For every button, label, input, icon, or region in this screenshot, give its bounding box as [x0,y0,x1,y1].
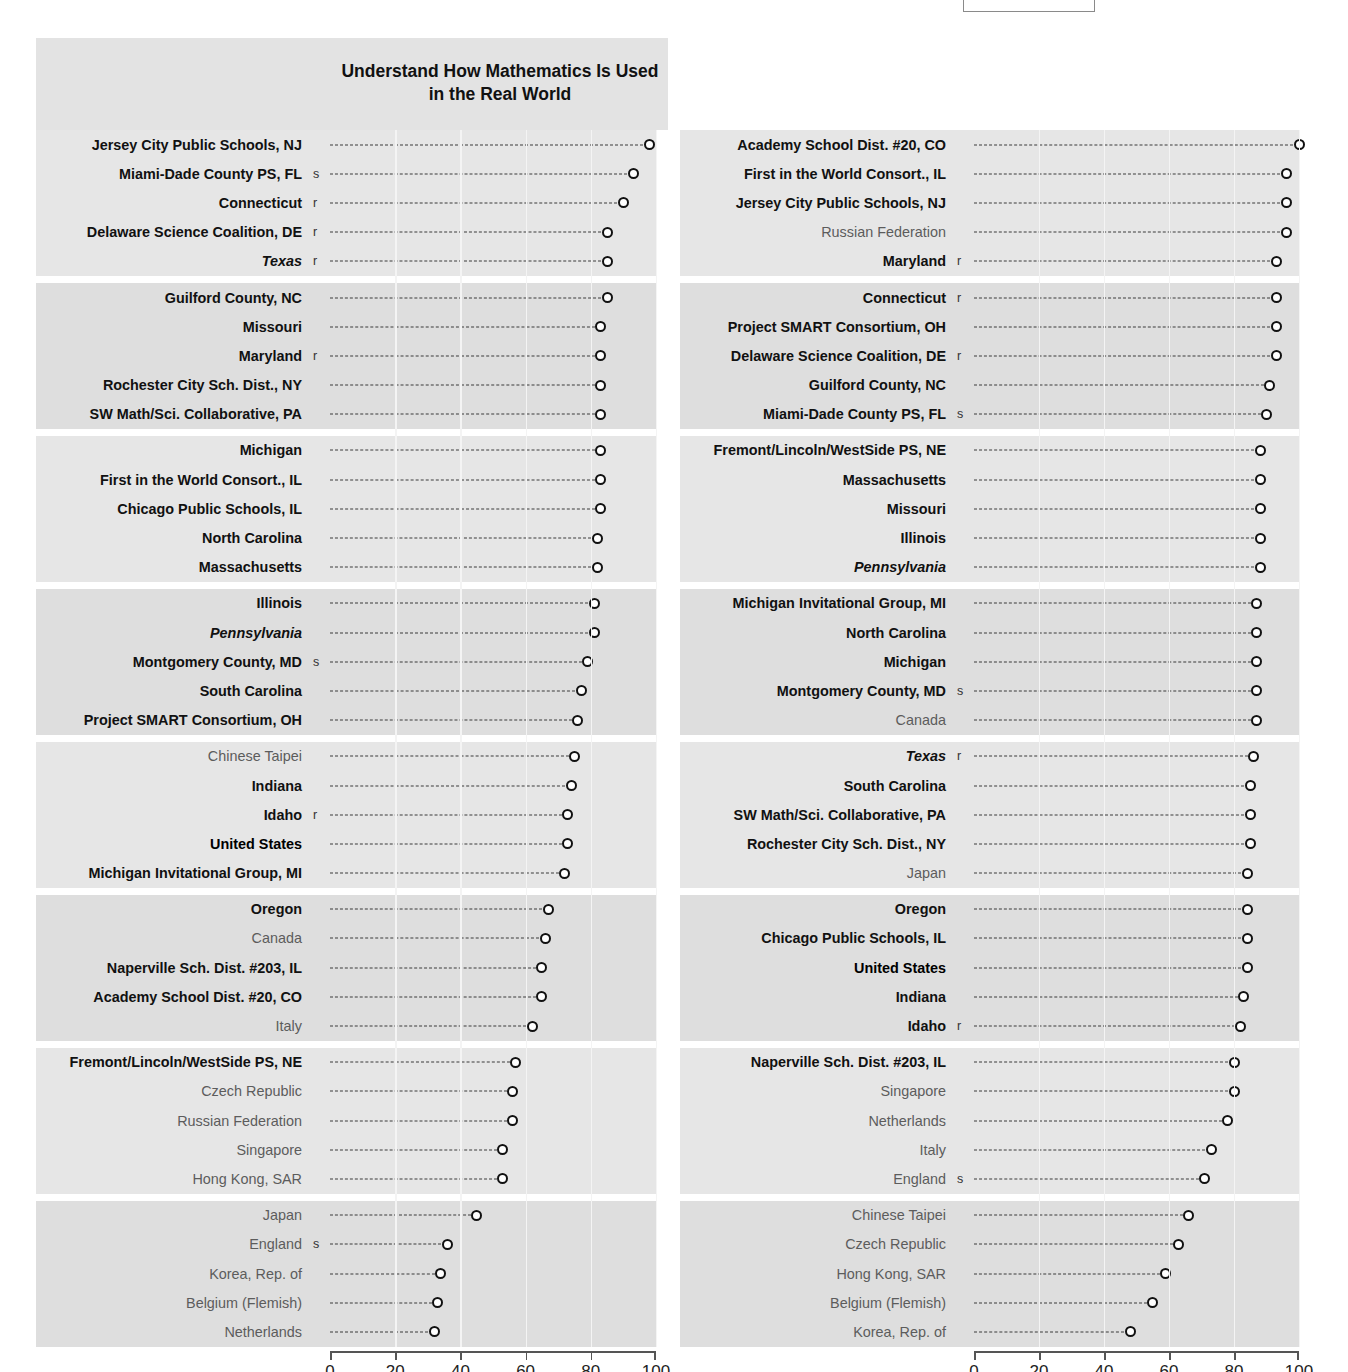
data-point-marker[interactable] [1271,321,1282,332]
data-point-marker[interactable] [602,292,613,303]
chart-row[interactable]: Chicago Public Schools, IL [680,924,1299,953]
data-point-marker[interactable] [543,904,554,915]
data-point-marker[interactable] [1238,991,1249,1002]
chart-row[interactable]: Hong Kong, SAR [680,1259,1299,1288]
chart-row[interactable]: Singapore [36,1135,656,1164]
data-point-marker[interactable] [592,533,603,544]
data-point-marker[interactable] [540,933,551,944]
data-point-marker[interactable] [595,350,606,361]
chart-row[interactable]: Miami-Dade County PS, FLs [36,159,656,188]
chart-row[interactable]: Canada [36,924,656,953]
chart-row[interactable]: Canada [680,706,1299,735]
data-point-marker[interactable] [1229,1057,1240,1068]
chart-row[interactable]: Chicago Public Schools, IL [36,494,656,523]
data-point-marker[interactable] [602,227,613,238]
chart-row[interactable]: Japan [680,859,1299,888]
chart-row[interactable]: United States [680,953,1299,982]
data-point-marker[interactable] [1271,292,1282,303]
data-point-marker[interactable] [432,1297,443,1308]
data-point-marker[interactable] [1242,933,1253,944]
data-point-marker[interactable] [1147,1297,1158,1308]
data-point-marker[interactable] [1251,598,1262,609]
data-point-marker[interactable] [1235,1021,1246,1032]
data-point-marker[interactable] [429,1326,440,1337]
data-point-marker[interactable] [1251,627,1262,638]
chart-row[interactable]: Miami-Dade County PS, FLs [680,400,1299,429]
data-point-marker[interactable] [435,1268,446,1279]
data-point-marker[interactable] [1160,1268,1171,1279]
data-point-marker[interactable] [507,1086,518,1097]
chart-row[interactable]: Belgium (Flemish) [680,1288,1299,1317]
chart-row[interactable]: Indiana [36,771,656,800]
chart-row[interactable]: SW Math/Sci. Collaborative, PA [680,800,1299,829]
data-point-marker[interactable] [1125,1326,1136,1337]
data-point-marker[interactable] [497,1144,508,1155]
chart-row[interactable]: Oregon [680,895,1299,924]
data-point-marker[interactable] [569,751,580,762]
chart-row[interactable]: Chinese Taipei [680,1201,1299,1230]
data-point-marker[interactable] [497,1173,508,1184]
data-point-marker[interactable] [1222,1115,1233,1126]
data-point-marker[interactable] [562,838,573,849]
chart-row[interactable]: Massachusetts [36,553,656,582]
chart-row[interactable]: Japan [36,1201,656,1230]
chart-row[interactable]: Korea, Rep. of [680,1317,1299,1346]
chart-row[interactable]: Korea, Rep. of [36,1259,656,1288]
chart-row[interactable]: Massachusetts [680,465,1299,494]
chart-row[interactable]: Project SMART Consortium, OH [680,312,1299,341]
data-point-marker[interactable] [595,503,606,514]
data-point-marker[interactable] [510,1057,521,1068]
data-point-marker[interactable] [1245,780,1256,791]
chart-row[interactable]: Jersey City Public Schools, NJ [680,188,1299,217]
chart-row[interactable]: Pennsylvania [36,618,656,647]
data-point-marker[interactable] [589,627,600,638]
data-point-marker[interactable] [1245,838,1256,849]
chart-row[interactable]: Chinese Taipei [36,742,656,771]
data-point-marker[interactable] [507,1115,518,1126]
data-point-marker[interactable] [1264,380,1275,391]
chart-row[interactable]: Guilford County, NC [36,283,656,312]
chart-row[interactable]: Missouri [36,312,656,341]
data-point-marker[interactable] [1281,197,1292,208]
chart-row[interactable]: Naperville Sch. Dist. #203, IL [36,953,656,982]
chart-row[interactable]: Illinois [36,589,656,618]
data-point-marker[interactable] [471,1210,482,1221]
chart-row[interactable]: Texasr [36,247,656,276]
chart-row[interactable]: First in the World Consort., IL [36,465,656,494]
chart-row[interactable]: Jersey City Public Schools, NJ [36,130,656,159]
data-point-marker[interactable] [1199,1173,1210,1184]
data-point-marker[interactable] [595,445,606,456]
chart-row[interactable]: Fremont/Lincoln/WestSide PS, NE [36,1048,656,1077]
chart-row[interactable]: Singapore [680,1077,1299,1106]
data-point-marker[interactable] [572,715,583,726]
data-point-marker[interactable] [1248,751,1259,762]
data-point-marker[interactable] [628,168,639,179]
chart-row[interactable]: Missouri [680,494,1299,523]
chart-row[interactable]: SW Math/Sci. Collaborative, PA [36,400,656,429]
chart-row[interactable]: Marylandr [36,341,656,370]
data-point-marker[interactable] [562,809,573,820]
data-point-marker[interactable] [1229,1086,1240,1097]
data-point-marker[interactable] [1255,562,1266,573]
data-point-marker[interactable] [1183,1210,1194,1221]
chart-row[interactable]: Netherlands [680,1106,1299,1135]
data-point-marker[interactable] [1251,715,1262,726]
data-point-marker[interactable] [536,962,547,973]
data-point-marker[interactable] [582,656,593,667]
data-point-marker[interactable] [618,197,629,208]
chart-row[interactable]: Montgomery County, MDs [680,676,1299,705]
chart-row[interactable]: Rochester City Sch. Dist., NY [680,829,1299,858]
chart-row[interactable]: Michigan [36,436,656,465]
data-point-marker[interactable] [1251,685,1262,696]
data-point-marker[interactable] [1271,256,1282,267]
chart-row[interactable]: Academy School Dist. #20, CO [680,130,1299,159]
chart-row[interactable]: Oregon [36,895,656,924]
chart-row[interactable]: Academy School Dist. #20, CO [36,982,656,1011]
data-point-marker[interactable] [595,409,606,420]
data-point-marker[interactable] [1242,962,1253,973]
data-point-marker[interactable] [1206,1144,1217,1155]
data-point-marker[interactable] [1281,227,1292,238]
chart-row[interactable]: Project SMART Consortium, OH [36,706,656,735]
chart-row[interactable]: Fremont/Lincoln/WestSide PS, NE [680,436,1299,465]
data-point-marker[interactable] [1255,474,1266,485]
